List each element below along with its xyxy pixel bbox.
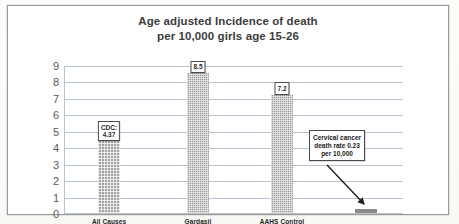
y-tick-label-2: 2 xyxy=(53,175,59,187)
bar-label-all-causes-line-1: CDC: xyxy=(101,124,117,132)
plot-area: 9 8 7 6 5 4 3 2 1 0 CDC: 4.37 All Causes… xyxy=(65,66,403,214)
y-tick-label-9: 9 xyxy=(53,60,59,72)
y-tick-label-5: 5 xyxy=(53,126,59,138)
gridline-8 xyxy=(65,82,403,83)
y-tick-label-8: 8 xyxy=(53,76,59,88)
bar-all-causes[interactable] xyxy=(98,141,120,213)
y-tick-label-4: 4 xyxy=(53,142,59,154)
annotation-callout: Cervical cancer death rate 0.23 per 10,0… xyxy=(309,130,365,161)
y-tick-label-1: 1 xyxy=(53,192,59,204)
annotation-line-3: per 10,000 xyxy=(313,150,361,158)
y-tick-label-6: 6 xyxy=(53,109,59,121)
bar-cervical-cancer[interactable] xyxy=(355,209,377,213)
bar-label-all-causes-line-2: 4.37 xyxy=(101,131,117,139)
y-axis-line xyxy=(64,66,65,214)
chart-title-line-1: Age adjusted Incidence of death xyxy=(138,15,317,27)
chart-title: Age adjusted Incidence of death per 10,0… xyxy=(8,14,448,44)
gridline-9 xyxy=(65,66,403,67)
gridline-7 xyxy=(65,99,403,100)
bar-label-gardasil-line-1: 8.5 xyxy=(193,63,202,71)
bar-label-gardasil: 8.5 xyxy=(190,61,205,74)
gridline-6 xyxy=(65,115,403,116)
bar-gardasil[interactable] xyxy=(187,73,209,213)
category-label-aahs-control: AAHS Control xyxy=(260,218,305,224)
chart-title-line-2: per 10,000 girls age 15-26 xyxy=(8,29,448,44)
category-label-all-causes: All Causes xyxy=(92,218,126,224)
bar-label-aahs-control-line-1: 7.2 xyxy=(277,85,286,93)
chart-frame: Age adjusted Incidence of death per 10,0… xyxy=(7,5,449,215)
y-tick-label-0: 0 xyxy=(53,208,59,220)
bar-label-aahs-control: 7.2 xyxy=(274,82,289,95)
x-axis-line xyxy=(65,213,403,214)
annotation-line-1: Cervical cancer xyxy=(313,134,361,142)
bar-aahs-control[interactable] xyxy=(271,95,293,213)
category-label-gardasil: Gardasil xyxy=(185,218,212,224)
y-tick-label-7: 7 xyxy=(53,93,59,105)
annotation-line-2: death rate 0.23 xyxy=(313,142,361,150)
y-tick-label-3: 3 xyxy=(53,159,59,171)
bar-label-all-causes: CDC: 4.37 xyxy=(98,121,120,141)
